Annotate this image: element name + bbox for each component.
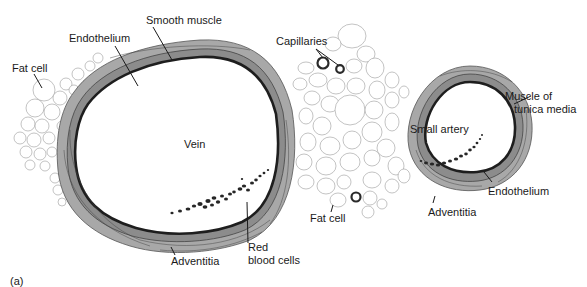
label-endothelium-vein: Endothelium (69, 32, 130, 44)
capillary-1 (318, 58, 329, 69)
capillary-3 (352, 193, 361, 202)
label-vein: Vein (184, 138, 205, 150)
capillary-2 (336, 65, 344, 73)
label-capillaries: Capillaries (276, 35, 328, 47)
label-muscle-of-tunica-media-1: Muscle of (505, 90, 553, 102)
label-red-blood-cells-2: blood cells (248, 254, 300, 266)
vein (57, 40, 295, 253)
label-red-blood-cells-1: Red (248, 241, 268, 253)
label-muscle-of-tunica-media-2: tunica media (514, 103, 577, 115)
label-adventitia-vein: Adventitia (171, 255, 220, 267)
label-fat-cell-left: Fat cell (12, 62, 47, 74)
label-endothelium-artery: Endothelium (488, 185, 549, 197)
fat-cells-center (293, 24, 410, 218)
label-smooth-muscle: Smooth muscle (146, 14, 222, 26)
label-small-artery: Small artery (410, 123, 469, 135)
label-fat-cell-center: Fat cell (310, 212, 345, 224)
blood-vessel-cross-section-diagram: Smooth muscle Endothelium Fat cell Capil… (0, 0, 587, 287)
panel-label: (a) (10, 275, 23, 287)
label-adventitia-artery: Adventitia (428, 206, 477, 218)
